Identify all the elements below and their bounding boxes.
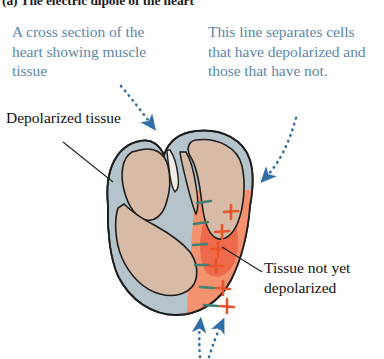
callout-arrow-bottom-left (199, 325, 200, 357)
minus-sign (204, 305, 218, 306)
heart-diagram-artwork (0, 0, 384, 359)
minus-sign (193, 244, 207, 245)
leader-line-depolarized (63, 142, 113, 182)
callout-arrow-bottom-right (209, 325, 221, 357)
callout-arrow-right (266, 118, 296, 177)
heart-cross-section (107, 131, 262, 325)
minus-sign (200, 287, 214, 288)
callout-arrow-left (121, 86, 151, 124)
figure-electric-dipole-of-heart: (a) The electric dipole of the heart A c… (0, 0, 384, 359)
